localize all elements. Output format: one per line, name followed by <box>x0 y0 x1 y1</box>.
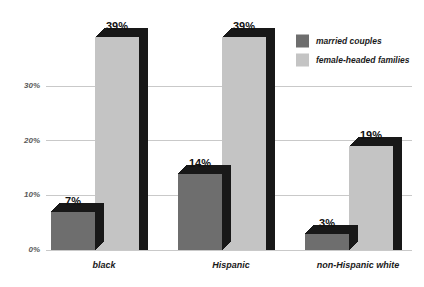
legend-label: female-headed families <box>316 55 410 65</box>
y-axis-tick-label: 0% <box>28 245 40 254</box>
legend-swatch <box>296 35 309 48</box>
y-axis-tick-label: 10% <box>24 190 40 199</box>
bar-chart: 0%10%20%30% 39%7%39%14%19%3% blackHispan… <box>0 0 424 287</box>
bar-value-label: 39% <box>106 20 128 32</box>
chart-container: 0%10%20%30% 39%7%39%14%19%3% blackHispan… <box>0 0 424 287</box>
x-axis-category-label: Hispanic <box>212 260 250 270</box>
chart-legend: married couplesfemale-headed families <box>296 35 410 67</box>
legend-label: married couples <box>316 36 382 46</box>
bar-side-face <box>266 28 275 250</box>
bar-value-label: 3% <box>319 217 335 229</box>
y-axis-tick-labels: 0%10%20%30% <box>23 81 40 254</box>
y-axis-tick-label: 30% <box>24 81 40 90</box>
bar <box>51 212 95 250</box>
y-axis-tick-label: 20% <box>23 136 40 145</box>
x-axis-category-labels: blackHispanicnon-Hispanic white <box>92 260 399 270</box>
bar <box>305 234 349 250</box>
bar-value-label: 19% <box>360 129 382 141</box>
legend-swatch <box>296 54 309 67</box>
x-axis-category-label: black <box>92 260 116 270</box>
bar-value-label: 39% <box>233 20 255 32</box>
x-axis-category-label: non-Hispanic white <box>317 260 400 270</box>
bar-value-label: 7% <box>65 195 81 207</box>
bar <box>178 174 222 250</box>
bar-side-face <box>393 137 402 250</box>
bar-side-face <box>139 28 148 250</box>
bar-value-label: 14% <box>189 157 211 169</box>
bar-side-face <box>222 165 231 250</box>
